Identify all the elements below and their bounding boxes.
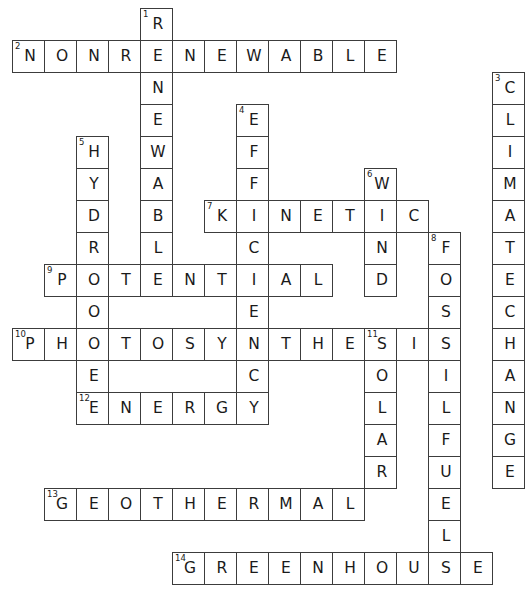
crossword-cell[interactable]: 9P [44, 264, 77, 297]
crossword-cell[interactable]: 12E [76, 392, 109, 425]
crossword-cell[interactable]: 7K [204, 200, 237, 233]
crossword-cell[interactable]: R [364, 456, 397, 489]
crossword-cell[interactable]: N [108, 392, 141, 425]
crossword-cell[interactable]: 4E [236, 104, 269, 137]
crossword-cell[interactable]: N [140, 72, 173, 105]
crossword-cell[interactable]: L [300, 264, 333, 297]
crossword-cell[interactable]: 10P [12, 328, 45, 361]
crossword-cell[interactable]: E [140, 392, 173, 425]
crossword-cell[interactable]: I [492, 136, 525, 169]
crossword-cell[interactable]: R [172, 392, 205, 425]
crossword-cell[interactable]: N [172, 40, 205, 73]
crossword-cell[interactable]: S [172, 328, 205, 361]
crossword-cell[interactable]: Y [236, 392, 269, 425]
crossword-cell[interactable]: T [268, 328, 301, 361]
crossword-cell[interactable]: N [492, 392, 525, 425]
crossword-cell[interactable]: R [76, 232, 109, 265]
crossword-cell[interactable]: I [396, 328, 429, 361]
crossword-cell[interactable]: L [428, 392, 461, 425]
crossword-cell[interactable]: L [332, 40, 365, 73]
crossword-cell[interactable]: 2N [12, 40, 45, 73]
crossword-cell[interactable]: E [76, 488, 109, 521]
crossword-cell[interactable]: W [236, 40, 269, 73]
crossword-cell[interactable]: E [492, 456, 525, 489]
crossword-cell[interactable]: F [236, 136, 269, 169]
crossword-cell[interactable]: A [268, 264, 301, 297]
crossword-cell[interactable]: A [300, 488, 333, 521]
crossword-cell[interactable]: C [492, 296, 525, 329]
crossword-cell[interactable]: L [364, 392, 397, 425]
crossword-cell[interactable]: D [364, 264, 397, 297]
crossword-cell[interactable]: 11S [364, 328, 397, 361]
crossword-cell[interactable]: N [172, 264, 205, 297]
crossword-cell[interactable]: O [76, 328, 109, 361]
crossword-cell[interactable]: B [300, 40, 333, 73]
crossword-cell[interactable]: E [204, 40, 237, 73]
crossword-cell[interactable]: 14G [172, 552, 205, 585]
crossword-cell[interactable]: G [204, 392, 237, 425]
crossword-cell[interactable]: O [140, 328, 173, 361]
crossword-cell[interactable]: N [364, 232, 397, 265]
crossword-cell[interactable]: E [140, 104, 173, 137]
crossword-cell[interactable]: E [236, 552, 269, 585]
crossword-cell[interactable]: H [332, 552, 365, 585]
crossword-cell[interactable]: H [492, 328, 525, 361]
crossword-cell[interactable]: E [268, 552, 301, 585]
crossword-cell[interactable]: G [492, 424, 525, 457]
crossword-cell[interactable]: N [76, 40, 109, 73]
crossword-cell[interactable]: T [204, 264, 237, 297]
crossword-cell[interactable]: E [236, 296, 269, 329]
crossword-cell[interactable]: 13G [44, 488, 77, 521]
crossword-cell[interactable]: E [492, 264, 525, 297]
crossword-cell[interactable]: T [108, 264, 141, 297]
crossword-cell[interactable]: R [108, 40, 141, 73]
crossword-cell[interactable]: R [204, 552, 237, 585]
crossword-cell[interactable]: U [428, 456, 461, 489]
crossword-cell[interactable]: T [140, 488, 173, 521]
crossword-cell[interactable]: C [236, 232, 269, 265]
crossword-cell[interactable]: S [428, 296, 461, 329]
crossword-cell[interactable]: C [236, 360, 269, 393]
crossword-cell[interactable]: L [428, 520, 461, 553]
crossword-cell[interactable]: O [76, 264, 109, 297]
crossword-cell[interactable]: D [76, 200, 109, 233]
crossword-cell[interactable]: M [492, 168, 525, 201]
crossword-cell[interactable]: I [428, 360, 461, 393]
crossword-cell[interactable]: A [492, 200, 525, 233]
crossword-cell[interactable]: S [428, 328, 461, 361]
crossword-cell[interactable]: H [300, 328, 333, 361]
crossword-cell[interactable]: Y [76, 168, 109, 201]
crossword-cell[interactable]: O [364, 552, 397, 585]
crossword-cell[interactable]: I [364, 200, 397, 233]
crossword-cell[interactable]: E [140, 264, 173, 297]
crossword-cell[interactable]: E [460, 552, 493, 585]
crossword-cell[interactable]: S [428, 552, 461, 585]
crossword-cell[interactable]: N [268, 200, 301, 233]
crossword-cell[interactable]: R [236, 488, 269, 521]
crossword-cell[interactable]: A [268, 40, 301, 73]
crossword-cell[interactable]: 3C [492, 72, 525, 105]
crossword-cell[interactable]: W [140, 136, 173, 169]
crossword-cell[interactable]: 1R [140, 8, 173, 41]
crossword-cell[interactable]: N [300, 552, 333, 585]
crossword-cell[interactable]: A [492, 360, 525, 393]
crossword-cell[interactable]: O [108, 488, 141, 521]
crossword-cell[interactable]: 5H [76, 136, 109, 169]
crossword-cell[interactable]: E [332, 328, 365, 361]
crossword-cell[interactable]: L [492, 104, 525, 137]
crossword-cell[interactable]: I [236, 264, 269, 297]
crossword-cell[interactable]: T [332, 200, 365, 233]
crossword-cell[interactable]: E [204, 488, 237, 521]
crossword-cell[interactable]: F [428, 424, 461, 457]
crossword-cell[interactable]: B [140, 200, 173, 233]
crossword-cell[interactable]: N [236, 328, 269, 361]
crossword-cell[interactable]: A [140, 168, 173, 201]
crossword-cell[interactable]: O [76, 296, 109, 329]
crossword-cell[interactable]: E [364, 40, 397, 73]
crossword-cell[interactable]: O [428, 264, 461, 297]
crossword-cell[interactable]: H [172, 488, 205, 521]
crossword-cell[interactable]: A [364, 424, 397, 457]
crossword-cell[interactable]: 8F [428, 232, 461, 265]
crossword-cell[interactable]: H [44, 328, 77, 361]
